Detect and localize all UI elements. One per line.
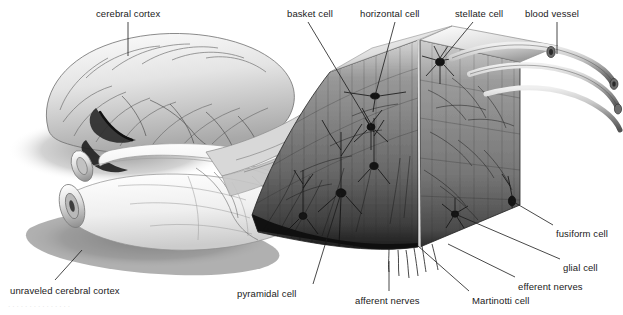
label-efferent-nerves: efferent nerves [518,281,583,292]
illustration-artwork [0,0,623,315]
label-basket-cell: basket cell [287,8,333,19]
label-afferent-nerves: afferent nerves [355,295,420,306]
label-fusiform-cell: fusiform cell [556,228,608,239]
leader-glial-cell [455,214,560,259]
label-glial-cell: glial cell [563,262,598,273]
leader-fusiform-cell [512,201,553,225]
anatomical-figure: · · · · · · · · · · · · · · · cerebral c… [0,0,623,315]
label-horizontal-cell: horizontal cell [360,8,420,19]
label-unraveled-cerebral-cortex: unraveled cerebral cortex [10,285,120,296]
leader-efferent-nerves [448,244,515,277]
label-cerebral-cortex: cerebral cortex [96,8,160,19]
label-stellate-cell: stellate cell [455,8,503,19]
label-blood-vessel: blood vessel [525,8,579,19]
label-pyramidal-cell: pyramidal cell [237,288,296,299]
label-martinotti-cell: Martinotti cell [472,295,529,306]
